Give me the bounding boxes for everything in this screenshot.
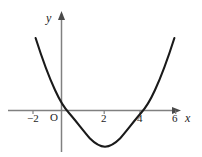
x-axis-label: x xyxy=(185,112,190,124)
y-axis-label: y xyxy=(46,12,51,24)
origin-label: O xyxy=(50,112,58,123)
y-axis-arrowhead xyxy=(58,11,65,20)
x-tick-label-minus2: −2 xyxy=(27,113,39,124)
x-tick-label-4: 4 xyxy=(137,113,143,124)
plot-canvas xyxy=(0,0,202,157)
x-tick-label-6: 6 xyxy=(172,113,178,124)
x-tick-label-2: 2 xyxy=(101,113,107,124)
parabola-curve xyxy=(36,38,175,147)
graph-figure: y x O −2 2 4 6 xyxy=(0,0,202,157)
